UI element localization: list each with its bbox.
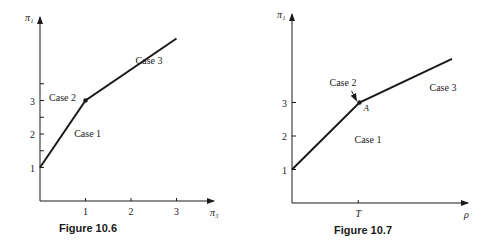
x-tick-label: T	[355, 208, 362, 219]
y-axis-label: π₁	[277, 9, 286, 20]
y-tick-label: 2	[30, 129, 35, 140]
y-tick-label: 1	[282, 165, 287, 176]
case-annotation: Case 1	[355, 134, 382, 145]
figure-caption: Figure 10.6	[59, 222, 117, 234]
x-axis-label: π₃	[210, 207, 219, 218]
case-annotation: Case 1	[74, 128, 101, 139]
kink-point	[83, 98, 87, 102]
annotation-arrow	[352, 91, 357, 101]
y-tick-label: 3	[30, 96, 35, 107]
case-annotation: Case 3	[136, 55, 163, 66]
y-tick-label: 2	[282, 131, 287, 142]
case-annotation: Case 2	[49, 92, 76, 103]
x-tick-label: 2	[129, 206, 134, 217]
x-tick-label: 1	[83, 206, 88, 217]
figure-10-6: π₃π₁123123Case 1Case 2Case 3Figure 10.6	[25, 12, 219, 234]
point-label: A	[363, 103, 370, 113]
figure-caption: Figure 10.7	[334, 224, 392, 236]
case-annotation: Case 3	[430, 82, 457, 93]
x-axis-label: ρ	[463, 209, 469, 220]
figures-canvas: π₃π₁123123Case 1Case 2Case 3Figure 10.6 …	[0, 0, 491, 244]
series-line	[292, 59, 452, 170]
x-tick-label: 3	[174, 206, 179, 217]
kink-point	[357, 100, 361, 104]
figure-10-7: ρπ₁T123ACase 1Case 2Case 3Figure 10.7	[277, 9, 469, 236]
y-axis-label: π₁	[25, 12, 34, 23]
y-tick-label: 3	[282, 98, 287, 109]
y-tick-label: 1	[30, 163, 35, 174]
case-annotation: Case 2	[330, 77, 357, 88]
